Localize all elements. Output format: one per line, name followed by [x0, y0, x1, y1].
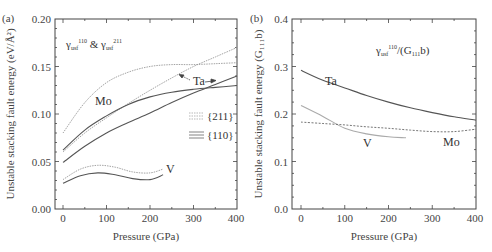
curve-v-211 — [63, 165, 163, 179]
ytick: 0.2 — [274, 108, 288, 120]
xtick: 100 — [98, 212, 115, 224]
panel-b-frame — [292, 19, 476, 209]
panel-a: (a) Unstable stacking fault energy (eV/Å… — [2, 12, 245, 243]
xtick: 300 — [424, 212, 441, 224]
panel-b-ylabel: Unstable stacking fault energy (G₁₁₁b) — [252, 29, 265, 198]
legend-211-swatch — [189, 113, 204, 119]
panel-a-legend: {211} {110} — [189, 110, 234, 141]
ytick: 0.1 — [274, 156, 288, 168]
curve-v — [301, 106, 406, 138]
ytick: 0.00 — [32, 203, 52, 215]
mo-label-b: Mo — [443, 135, 460, 149]
curve-v-110 — [63, 173, 163, 183]
panel-b-annotation: γusf110/(G111b) — [375, 44, 430, 57]
xtick: 300 — [185, 212, 202, 224]
ytick: 0.3 — [274, 61, 288, 73]
panel-b-yticks: 0.0 0.1 0.2 0.3 0.4 — [274, 13, 288, 215]
curve-mo-211 — [63, 63, 237, 133]
legend-110-swatch — [189, 132, 204, 138]
v-label-a: V — [166, 162, 175, 176]
panel-a-ylabel: Unstable stacking fault energy (eV/Å²) — [4, 28, 17, 199]
xtick: 0 — [60, 212, 66, 224]
panel-a-xticks: 0 100 200 300 400 — [60, 212, 245, 224]
xtick: 100 — [337, 212, 354, 224]
panel-b-xticks: 0 100 200 300 400 — [298, 212, 484, 224]
panel-a-xlabel: Pressure (GPa) — [113, 230, 180, 243]
ytick: 0.20 — [32, 13, 52, 25]
ytick: 0.4 — [274, 13, 288, 25]
figure: (a) Unstable stacking fault energy (eV/Å… — [0, 0, 492, 252]
legend-110-label: {110} — [207, 129, 234, 141]
ytick: 0.0 — [274, 203, 288, 215]
ta-label-b: Ta — [325, 74, 337, 88]
panel-b-xlabel: Pressure (GPa) — [351, 230, 418, 243]
xtick: 0 — [298, 212, 304, 224]
panel-b-label: (b) — [250, 12, 263, 25]
ytick: 0.05 — [32, 156, 52, 168]
panel-b-tickmarks — [292, 19, 476, 209]
curve-mo — [301, 122, 476, 132]
panel-b: (b) Unstable stacking fault energy (G₁₁₁… — [250, 12, 484, 243]
ytick: 0.15 — [32, 61, 52, 73]
legend-211-label: {211} — [207, 110, 234, 122]
v-label-b: V — [363, 136, 372, 150]
xtick: 200 — [142, 212, 159, 224]
xtick: 400 — [228, 212, 245, 224]
ta-label-a: Ta — [193, 74, 205, 88]
xtick: 400 — [467, 212, 484, 224]
panel-a-yticks: 0.00 0.05 0.10 0.15 0.20 — [32, 13, 52, 215]
mo-label-a: Mo — [95, 94, 112, 108]
panel-a-annotation: γusf110 & γusf211 — [65, 38, 122, 51]
panel-a-label: (a) — [2, 12, 15, 25]
xtick: 200 — [380, 212, 397, 224]
ytick: 0.10 — [32, 108, 52, 120]
